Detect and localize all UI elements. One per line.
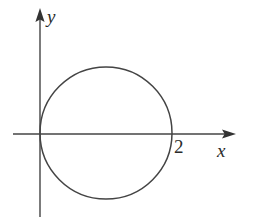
x-intercept-label: 2 (174, 137, 184, 156)
x-axis-label: x (217, 141, 225, 160)
circle-curve (40, 67, 172, 199)
math-figure-circle-tangent-to-y-axis: y x 2 (0, 0, 255, 217)
y-axis-label: y (47, 7, 55, 26)
coordinate-plot (0, 0, 255, 217)
